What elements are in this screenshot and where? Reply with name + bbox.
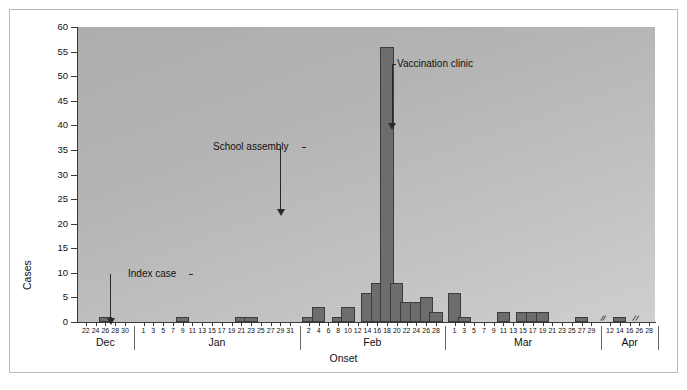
y-axis-labels: 051015202530354045505560: [40, 0, 68, 390]
month-label-apr: Apr: [621, 336, 637, 348]
annotation-arrow-school-assembly: [277, 209, 285, 216]
y-axis-tick-label: 20: [44, 219, 68, 228]
bar: [429, 312, 442, 322]
bar: [312, 307, 325, 322]
annotation-label-vaccination-clinic: Vaccination clinic: [397, 58, 473, 69]
annotation-label-index-case: Index case: [128, 268, 176, 279]
annotation-leader-line: [392, 64, 393, 123]
annotation-leader-line: [189, 274, 193, 275]
y-axis-tick-label: 0: [44, 317, 68, 326]
y-axis-tick-label: 5: [44, 292, 68, 301]
month-label-jan: Jan: [208, 336, 225, 348]
annotation-leader-line: [280, 147, 281, 209]
annotation-leader-line: [302, 147, 306, 148]
y-axis-tick-label: 50: [44, 71, 68, 80]
annotation-leader-line: [110, 274, 111, 318]
bar: [497, 312, 510, 322]
y-axis-tick-label: 25: [44, 194, 68, 203]
month-separator: [658, 326, 659, 350]
y-axis-tick-label: 10: [44, 268, 68, 277]
month-label-mar: Mar: [514, 336, 532, 348]
month-label-dec: Dec: [96, 336, 115, 348]
y-axis-tick-label: 15: [44, 243, 68, 252]
annotation-arrow-vaccination-clinic: [388, 123, 396, 130]
x-axis-title: Onset: [0, 352, 687, 364]
y-axis-tick-label: 60: [44, 22, 68, 31]
y-axis-tick-label: 30: [44, 170, 68, 179]
month-labels: DecJanFebMarApr: [78, 336, 655, 350]
annotation-arrow-index-case: [107, 318, 115, 325]
figure-page: Cases 051015202530354045505560 //// 2224…: [0, 0, 687, 390]
month-label-feb: Feb: [363, 336, 381, 348]
y-axis-title: Cases: [21, 260, 33, 290]
bar: [341, 307, 354, 322]
y-axis-tick-label: 35: [44, 145, 68, 154]
y-axis-title-wrapper: Cases: [26, 140, 40, 220]
y-axis-tick-label: 45: [44, 96, 68, 105]
y-axis-tick-label: 55: [44, 47, 68, 56]
y-axis-tick-label: 40: [44, 120, 68, 129]
bar: [536, 312, 549, 322]
annotation-label-school-assembly: School assembly: [213, 141, 289, 152]
